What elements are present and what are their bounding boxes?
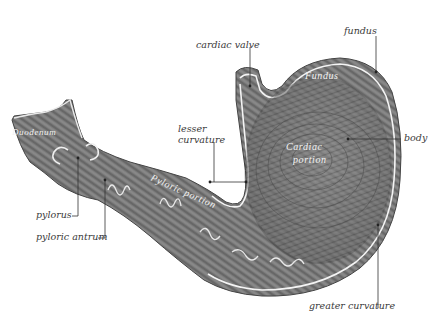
leader-lesser-curvature xyxy=(210,142,246,182)
stomach-diagram: Fundus Cardiac portion Pyloric portion D… xyxy=(0,0,448,331)
cardiac-shade xyxy=(244,76,392,264)
inner-label-portion: portion xyxy=(292,154,327,165)
label-body: body xyxy=(404,132,428,143)
label-lesser-curvature-1: lesser xyxy=(178,123,208,134)
inner-label-duodenum: Duodenum xyxy=(11,127,56,137)
label-pylorus: pylorus xyxy=(36,209,72,220)
stomach-outline xyxy=(12,58,401,296)
inner-label-cardiac: Cardiac xyxy=(286,141,323,152)
label-lesser-curvature-2: curvature xyxy=(178,134,225,145)
label-fundus: fundus xyxy=(343,25,377,36)
inner-label-fundus: Fundus xyxy=(304,70,339,81)
label-cardiac-valve: cardiac valve xyxy=(196,39,260,50)
label-greater-curvature: greater curvature xyxy=(309,300,395,311)
label-pyloric-antrum: pyloric antrum xyxy=(36,231,107,242)
